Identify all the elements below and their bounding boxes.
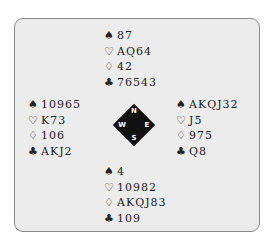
west-hearts: ♡K73 [28, 113, 81, 129]
south-hearts: ♡10982 [104, 180, 167, 196]
east-hand: ♠AKQJ32 ♡J5 ♢975 ♣Q8 [176, 97, 239, 159]
club-icon: ♣ [176, 144, 189, 160]
diamond-icon: ♢ [176, 128, 189, 144]
south-hand: ♠4 ♡10982 ♢AKQJ83 ♣109 [104, 164, 167, 226]
west-spades: ♠10965 [28, 97, 81, 113]
diamond-icon: ♢ [104, 195, 117, 211]
heart-icon: ♡ [176, 113, 189, 129]
north-spades: ♠87 [104, 28, 157, 44]
spade-icon: ♠ [176, 97, 189, 113]
south-clubs: ♣109 [104, 211, 167, 227]
west-clubs: ♣AKJ2 [28, 144, 81, 160]
north-hearts: ♡AQ64 [104, 44, 157, 60]
spade-icon: ♠ [28, 97, 41, 113]
north-clubs: ♣76543 [104, 75, 157, 91]
diamond-icon: ♢ [104, 59, 117, 75]
compass-west-label: W [117, 121, 127, 129]
west-hand: ♠10965 ♡K73 ♢106 ♣AKJ2 [28, 97, 81, 159]
east-diamonds: ♢975 [176, 128, 239, 144]
heart-icon: ♡ [104, 44, 117, 60]
east-clubs: ♣Q8 [176, 144, 239, 160]
compass-north-label: N [129, 107, 139, 115]
heart-icon: ♡ [104, 180, 117, 196]
south-spades: ♠4 [104, 164, 167, 180]
west-diamonds: ♢106 [28, 128, 81, 144]
club-icon: ♣ [104, 211, 117, 227]
heart-icon: ♡ [28, 113, 41, 129]
east-hearts: ♡J5 [176, 113, 239, 129]
club-icon: ♣ [28, 144, 41, 160]
south-diamonds: ♢AKQJ83 [104, 195, 167, 211]
club-icon: ♣ [104, 75, 117, 91]
north-hand: ♠87 ♡AQ64 ♢42 ♣76543 [104, 28, 157, 90]
north-diamonds: ♢42 [104, 59, 157, 75]
diamond-icon: ♢ [28, 128, 41, 144]
compass-south-label: S [129, 134, 139, 142]
east-spades: ♠AKQJ32 [176, 97, 239, 113]
spade-icon: ♠ [104, 164, 117, 180]
spade-icon: ♠ [104, 28, 117, 44]
compass-east-label: E [142, 121, 152, 129]
